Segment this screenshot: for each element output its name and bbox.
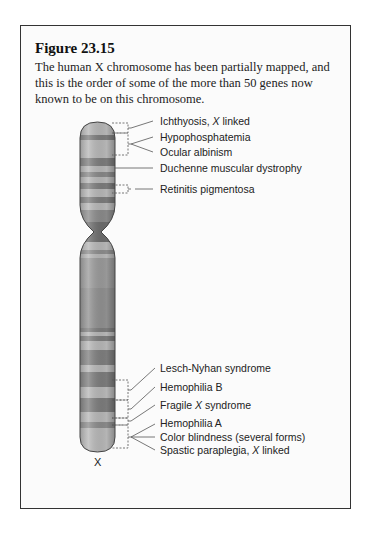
gene-label-hypophosphatemia: Hypophosphatemia <box>160 131 250 143</box>
gene-label-ocular-albinism: Ocular albinism <box>160 146 232 158</box>
chromosome-x <box>75 118 120 458</box>
chromosome-label: X <box>94 456 101 468</box>
gene-label-spastic-paraplegia: Spastic paraplegia, X linked <box>160 444 290 456</box>
gene-label-retinitis: Retinitis pigmentosa <box>160 183 255 195</box>
gene-label-hemophilia-a: Hemophilia A <box>160 417 222 429</box>
chromosome-diagram <box>0 0 369 543</box>
gene-label-hemophilia-b: Hemophilia B <box>160 381 222 393</box>
leader-lines <box>112 121 155 450</box>
gene-label-lesch-nyhan: Lesch-Nyhan syndrome <box>160 362 271 374</box>
gene-label-color-blindness: Color blindness (several forms) <box>160 431 305 443</box>
gene-label-duchenne: Duchenne muscular dystrophy <box>160 162 302 174</box>
gene-label-fragile-x: Fragile X syndrome <box>160 399 251 411</box>
gene-label-ichthyosis: Ichthyosis, X linked <box>160 115 250 127</box>
